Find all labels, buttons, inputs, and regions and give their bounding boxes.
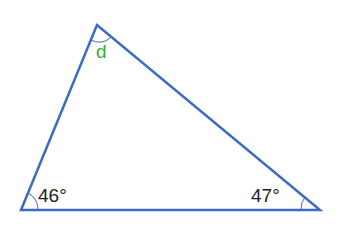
angle-label-bottom-left: 46° xyxy=(38,186,67,205)
angle-label-bottom-right: 47° xyxy=(251,186,280,205)
triangle xyxy=(21,25,320,210)
angle-arc-bottom-right xyxy=(301,197,305,210)
angle-arc-bottom-left xyxy=(28,193,38,210)
angle-label-top: d xyxy=(96,42,107,61)
